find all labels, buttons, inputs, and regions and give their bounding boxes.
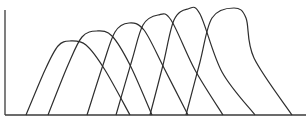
response-curve-3 xyxy=(87,23,188,115)
response-curve-6 xyxy=(186,8,292,115)
chart-canvas xyxy=(0,0,306,119)
response-curve-4 xyxy=(116,14,223,115)
response-curve-1 xyxy=(26,41,130,115)
response-curves-chart xyxy=(0,0,306,119)
curves-group xyxy=(26,7,292,115)
response-curve-5 xyxy=(150,7,255,115)
